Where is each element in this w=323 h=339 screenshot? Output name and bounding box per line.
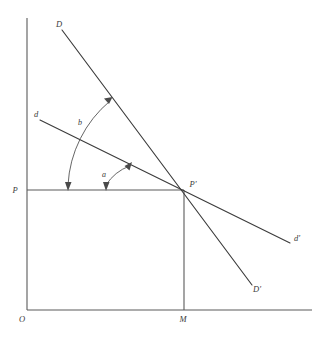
label-M: M	[178, 314, 187, 324]
angle-a-annotation	[103, 162, 132, 191]
label-d-prime: d'	[294, 233, 300, 243]
steep-demand-curve-DD	[62, 30, 252, 285]
label-P: P	[11, 185, 17, 195]
label-O: O	[19, 314, 25, 324]
labels-group: D D' d d' P P' O M a b	[11, 19, 300, 324]
label-d: d	[34, 109, 39, 119]
label-D: D	[55, 19, 63, 29]
flat-demand-curve-dd	[40, 120, 290, 243]
demand-curves-group	[40, 30, 290, 285]
label-D-prime: D'	[252, 284, 261, 294]
figure-container: D D' d d' P P' O M a b	[0, 0, 323, 339]
angle-b-arrowhead-upper	[104, 97, 113, 104]
guide-lines-group	[27, 190, 184, 310]
label-P-prime: P'	[188, 179, 196, 189]
angle-a-arc	[106, 166, 130, 185]
label-angle-b: b	[78, 118, 82, 127]
demand-rotation-diagram: D D' d d' P P' O M a b	[0, 0, 323, 339]
label-angle-a: a	[102, 170, 106, 179]
axes-group	[27, 18, 312, 310]
